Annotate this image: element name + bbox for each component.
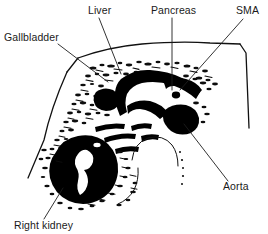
label-gallbladder: Gallbladder bbox=[4, 31, 59, 43]
label-aorta: Aorta bbox=[223, 180, 249, 192]
label-pancreas: Pancreas bbox=[151, 4, 196, 16]
label-sma: SMA bbox=[236, 4, 259, 16]
label-liver: Liver bbox=[88, 4, 112, 16]
anatomy-illustration-svg: Gallbladder Liver Pancreas SMA Aorta Rig… bbox=[0, 0, 268, 234]
renal-upper-void bbox=[93, 143, 100, 147]
anatomical-figure: Gallbladder Liver Pancreas SMA Aorta Rig… bbox=[0, 0, 268, 234]
label-right-kidney: Right kidney bbox=[14, 219, 74, 231]
sma-vessel bbox=[172, 92, 180, 99]
